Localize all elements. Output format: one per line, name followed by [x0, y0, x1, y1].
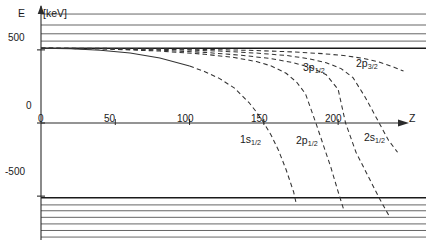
- curve-label-1s12-base: 1s: [240, 133, 251, 145]
- xtick-label-200: 200: [325, 114, 342, 124]
- curve-label-2p32-sub: 3/2: [368, 62, 378, 71]
- binding-energy-diagram: E [keV] Z 500 0 -500 0 50 100 150 200 3p…: [0, 0, 426, 246]
- curve-label-2s12-sub: 1/2: [375, 136, 385, 145]
- curve-label-2p12-base: 2p: [296, 134, 308, 146]
- xtick-label-150: 150: [251, 114, 268, 124]
- curve-label-2s12-base: 2s: [364, 131, 375, 143]
- curve-label-2s12: 2s1/2: [364, 132, 385, 143]
- curve-label-2p12: 2p1/2: [296, 135, 318, 146]
- level-curves: [41, 48, 404, 215]
- ytick-label-500: 500: [8, 33, 25, 43]
- xtick-label-50: 50: [104, 114, 115, 124]
- ytick-label-neg500: -500: [5, 167, 25, 177]
- curve-label-3p12: 3p1/2: [303, 62, 325, 73]
- upper-continuum-band: [41, 14, 426, 48]
- lower-continuum-band: [41, 198, 426, 237]
- x-axis-symbol: Z: [409, 113, 415, 124]
- xtick-label-100: 100: [177, 114, 194, 124]
- curve-label-2p32-base: 2p: [356, 57, 368, 69]
- curve-label-1s12-sub: 1/2: [251, 138, 261, 147]
- y-axis-unit: [keV]: [43, 8, 67, 19]
- curve-label-2p32: 2p3/2: [356, 58, 378, 69]
- xtick-label-0: 0: [38, 114, 44, 124]
- curve-label-3p12-sub: 1/2: [315, 66, 325, 75]
- y-axis-symbol: E: [18, 8, 25, 19]
- plot-canvas: [0, 0, 426, 246]
- ytick-label-0: 0: [26, 101, 32, 111]
- curve-label-1s12: 1s1/2: [240, 134, 261, 145]
- curve-label-2p12-sub: 1/2: [308, 139, 318, 148]
- curve-label-3p12-base: 3p: [303, 61, 315, 73]
